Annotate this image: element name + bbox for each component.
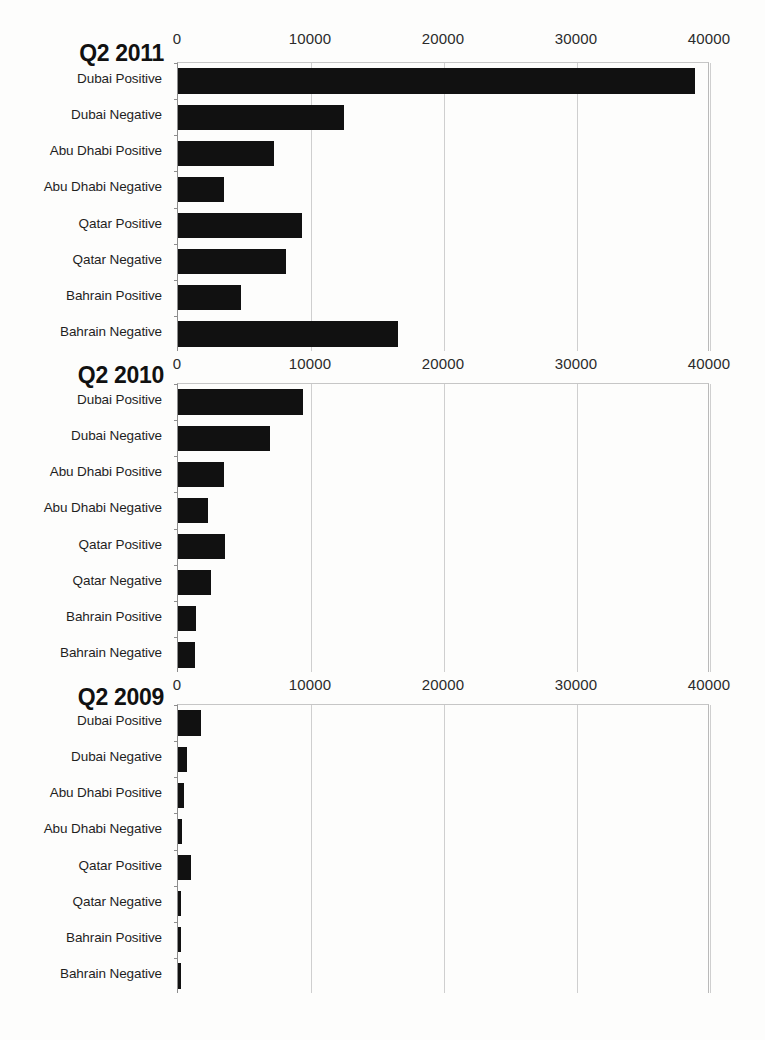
category-label: Qatar Negative bbox=[0, 894, 162, 909]
bar-row bbox=[178, 208, 708, 244]
bar[interactable] bbox=[178, 141, 274, 166]
bar-row bbox=[178, 705, 708, 741]
bar[interactable] bbox=[178, 462, 224, 487]
bar-row bbox=[178, 565, 708, 601]
bar[interactable] bbox=[178, 819, 182, 844]
gridline bbox=[710, 705, 711, 993]
category-label: Qatar Positive bbox=[0, 858, 162, 873]
category-labels-0: Dubai PositiveDubai NegativeAbu Dhabi Po… bbox=[0, 62, 170, 351]
y-tick-mark bbox=[174, 741, 178, 742]
bar[interactable] bbox=[178, 68, 695, 93]
y-tick-mark bbox=[174, 280, 178, 281]
bar[interactable] bbox=[178, 498, 208, 523]
bar-row bbox=[178, 922, 708, 958]
category-label: Bahrain Positive bbox=[0, 288, 162, 303]
x-tick-label: 40000 bbox=[688, 355, 731, 372]
bar[interactable] bbox=[178, 855, 191, 880]
chart-panel-1: 010000200003000040000Q2 2010Dubai Positi… bbox=[0, 355, 765, 678]
bar[interactable] bbox=[178, 285, 241, 310]
x-tick-label: 10000 bbox=[289, 355, 332, 372]
bar-row bbox=[178, 529, 708, 565]
category-labels-2: Dubai PositiveDubai NegativeAbu Dhabi Po… bbox=[0, 704, 170, 993]
y-tick-mark bbox=[174, 637, 178, 638]
y-tick-mark bbox=[174, 171, 178, 172]
bar[interactable] bbox=[178, 105, 344, 130]
bar-row bbox=[178, 135, 708, 171]
bar[interactable] bbox=[178, 249, 286, 274]
bar-rows-1 bbox=[178, 384, 708, 672]
category-label: Bahrain Negative bbox=[0, 645, 162, 660]
bar[interactable] bbox=[178, 321, 398, 346]
y-tick-mark bbox=[174, 99, 178, 100]
x-tick-label: 0 bbox=[173, 355, 182, 372]
plot-area-1 bbox=[177, 383, 709, 672]
category-label: Abu Dhabi Negative bbox=[0, 179, 162, 194]
bar-row bbox=[178, 813, 708, 849]
category-label: Qatar Positive bbox=[0, 216, 162, 231]
category-label: Abu Dhabi Positive bbox=[0, 143, 162, 158]
bar[interactable] bbox=[178, 213, 302, 238]
y-tick-mark bbox=[174, 420, 178, 421]
y-tick-mark bbox=[174, 384, 178, 385]
bar-row bbox=[178, 244, 708, 280]
y-tick-mark bbox=[174, 850, 178, 851]
x-tick-label: 20000 bbox=[422, 355, 465, 372]
chart-page: 010000200003000040000Q2 2011Dubai Positi… bbox=[0, 0, 765, 1040]
bar-row bbox=[178, 99, 708, 135]
category-label: Dubai Negative bbox=[0, 428, 162, 443]
bar-rows-0 bbox=[178, 63, 708, 351]
bar[interactable] bbox=[178, 927, 181, 952]
category-label: Bahrain Negative bbox=[0, 966, 162, 981]
y-tick-mark bbox=[174, 208, 178, 209]
y-tick-mark bbox=[174, 529, 178, 530]
category-label: Dubai Positive bbox=[0, 392, 162, 407]
bar[interactable] bbox=[178, 747, 187, 772]
category-label: Qatar Negative bbox=[0, 573, 162, 588]
bar[interactable] bbox=[178, 642, 195, 667]
category-label: Dubai Positive bbox=[0, 713, 162, 728]
y-tick-mark bbox=[174, 958, 178, 959]
x-tick-label: 20000 bbox=[422, 30, 465, 47]
bar[interactable] bbox=[178, 389, 303, 414]
category-label: Dubai Negative bbox=[0, 749, 162, 764]
x-tick-label: 40000 bbox=[688, 676, 731, 693]
bar[interactable] bbox=[178, 783, 184, 808]
y-tick-mark bbox=[174, 316, 178, 317]
category-label: Dubai Negative bbox=[0, 107, 162, 122]
gridline bbox=[710, 63, 711, 351]
x-tick-label: 20000 bbox=[422, 676, 465, 693]
category-label: Bahrain Negative bbox=[0, 324, 162, 339]
bar-row bbox=[178, 637, 708, 673]
category-labels-1: Dubai PositiveDubai NegativeAbu Dhabi Po… bbox=[0, 383, 170, 672]
x-tick-label: 10000 bbox=[289, 30, 332, 47]
bar-row bbox=[178, 777, 708, 813]
y-tick-mark bbox=[174, 135, 178, 136]
bar-row bbox=[178, 384, 708, 420]
bar[interactable] bbox=[178, 570, 211, 595]
category-label: Abu Dhabi Positive bbox=[0, 785, 162, 800]
bar[interactable] bbox=[178, 891, 181, 916]
bar-row bbox=[178, 741, 708, 777]
category-label: Abu Dhabi Negative bbox=[0, 500, 162, 515]
plot-area-0 bbox=[177, 62, 709, 351]
y-tick-mark bbox=[174, 705, 178, 706]
x-tick-label: 0 bbox=[173, 676, 182, 693]
y-tick-mark bbox=[174, 565, 178, 566]
y-tick-mark bbox=[174, 456, 178, 457]
bar-rows-2 bbox=[178, 705, 708, 993]
bar[interactable] bbox=[178, 606, 196, 631]
bar-row bbox=[178, 456, 708, 492]
category-label: Bahrain Positive bbox=[0, 930, 162, 945]
bar[interactable] bbox=[178, 963, 181, 988]
x-tick-label: 0 bbox=[173, 30, 182, 47]
y-tick-mark bbox=[174, 813, 178, 814]
bar[interactable] bbox=[178, 177, 224, 202]
y-tick-mark bbox=[174, 492, 178, 493]
bar[interactable] bbox=[178, 710, 201, 735]
y-tick-mark bbox=[174, 244, 178, 245]
bar-row bbox=[178, 420, 708, 456]
bar[interactable] bbox=[178, 534, 225, 559]
bar-row bbox=[178, 316, 708, 352]
bar[interactable] bbox=[178, 426, 270, 451]
y-tick-mark bbox=[174, 777, 178, 778]
